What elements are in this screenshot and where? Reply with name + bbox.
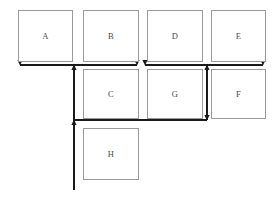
- node-label-c: C: [108, 90, 114, 99]
- node-box-e[interactable]: E: [211, 10, 266, 62]
- node-box-d[interactable]: D: [147, 10, 203, 62]
- diagram-canvas: ABDECGFH: [0, 0, 279, 199]
- node-label-e: E: [236, 32, 241, 41]
- node-label-b: B: [108, 32, 114, 41]
- node-box-h[interactable]: H: [83, 128, 139, 180]
- node-label-f: F: [236, 90, 241, 99]
- node-label-h: H: [108, 150, 114, 159]
- node-box-c[interactable]: C: [83, 69, 139, 119]
- node-box-f[interactable]: F: [211, 69, 266, 119]
- node-label-a: A: [42, 32, 48, 41]
- node-label-g: G: [172, 90, 178, 99]
- node-box-a[interactable]: A: [18, 10, 73, 62]
- node-box-b[interactable]: B: [83, 10, 139, 62]
- node-label-d: D: [172, 32, 178, 41]
- node-box-g[interactable]: G: [147, 69, 203, 119]
